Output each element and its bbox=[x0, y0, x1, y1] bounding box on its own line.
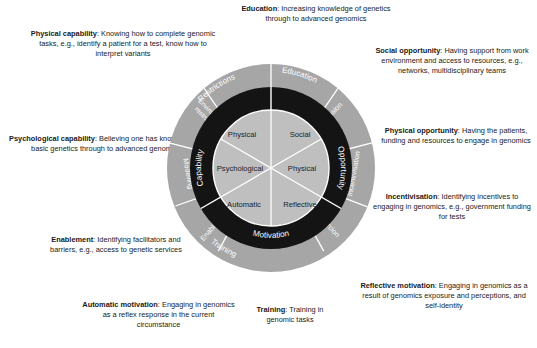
annotation-term: Enablement bbox=[51, 235, 93, 244]
annotation-term: Social opportunity bbox=[375, 46, 440, 55]
inner-circle-group: Physical Social Psychological Physical A… bbox=[213, 110, 329, 226]
annotation-incentivisation: Incentivisation: Identifying incentives … bbox=[372, 192, 532, 222]
annotation-training: Training: Training in genomic tasks bbox=[243, 305, 337, 325]
figure-canvas: Physical capability: Knowing how to comp… bbox=[0, 0, 537, 348]
annotation-text: : Increasing knowledge of genetics throu… bbox=[265, 4, 390, 23]
annotation-education: Education: Increasing knowledge of genet… bbox=[241, 4, 391, 24]
annotation-term: Education bbox=[241, 4, 277, 13]
inner-label-social-opportunity: Social bbox=[290, 130, 311, 139]
annotation-term: Reflective motivation bbox=[360, 281, 434, 290]
annotation-physical-opportunity: Physical opportunity: Having the patient… bbox=[380, 126, 532, 146]
inner-label-physical-opportunity: Physical bbox=[288, 164, 317, 173]
annotation-physical-capability: Physical capability: Knowing how to comp… bbox=[28, 29, 218, 59]
annotation-term: Physical capability bbox=[31, 29, 97, 38]
annotation-term: Incentivisation bbox=[386, 192, 438, 201]
inner-label-psychological-capability: Psychological bbox=[217, 164, 264, 173]
annotation-social-opportunity: Social opportunity: Having support from … bbox=[372, 46, 532, 76]
annotation-term: Psychological capability bbox=[9, 134, 95, 143]
annotation-term: Physical opportunity bbox=[385, 126, 458, 135]
inner-label-reflective-motivation: Reflective bbox=[283, 200, 316, 209]
annotation-term: Training bbox=[257, 305, 286, 314]
annotation-reflective-motivation: Reflective motivation: Engaging in genom… bbox=[358, 281, 530, 311]
inner-label-automatic-motivation: Automatic bbox=[227, 200, 261, 209]
inner-label-physical-capability: Physical bbox=[228, 130, 257, 139]
annotation-term: Automatic motivation bbox=[82, 300, 158, 309]
behaviour-change-wheel: Restrictions Education Training Environm… bbox=[164, 61, 378, 275]
annotation-automatic-motivation: Automatic motivation: Engaging in genomi… bbox=[81, 300, 236, 330]
